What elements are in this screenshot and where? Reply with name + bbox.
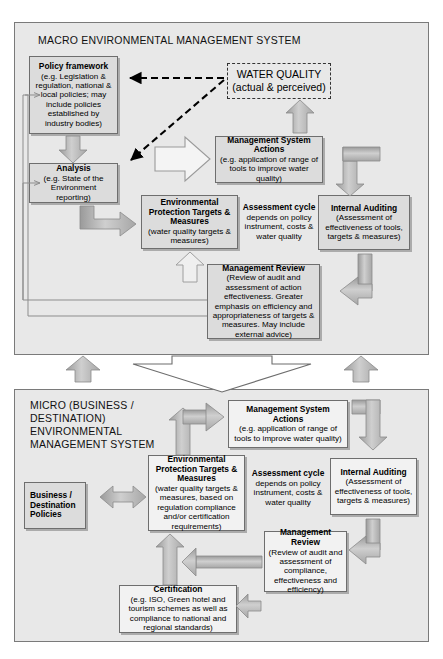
macro-management-review-body: (Review of audit and assessment of actio… <box>211 273 316 339</box>
micro-msa-body: (e.g. application of range of tools to i… <box>232 424 344 443</box>
micro-certification-heading: Certification <box>154 585 203 595</box>
arrow-macro-to-micro <box>133 356 311 392</box>
macro-policy-framework-box: Policy framework (e.g. Legislation & reg… <box>29 56 118 134</box>
micro-management-review-body: (Review of audit and assessment of compl… <box>268 548 343 595</box>
micro-internal-auditing-body: (Assessment of effectiveness of tools, t… <box>334 477 413 505</box>
micro-msa-heading: Management System Actions <box>232 405 344 424</box>
macro-msa-body: (e.g. application of range of tools to i… <box>219 155 319 183</box>
micro-certification-body: (e.g. ISO, Green hotel and tourism schem… <box>123 595 233 633</box>
arrow-micro-to-macro-left <box>66 356 100 382</box>
macro-internal-auditing-heading: Internal Auditing <box>331 204 397 214</box>
micro-assessment-cycle-heading: Assessment cycle <box>252 469 325 479</box>
macro-management-review-box: Management Review (Review of audit and a… <box>207 264 320 339</box>
micro-environmental-protection-targets-box: Environmental Protection Targets & Measu… <box>148 455 245 531</box>
macro-internal-auditing-box: Internal Auditing (Assessment of effecti… <box>318 195 410 250</box>
micro-ept-body: (water quality targets & measures, based… <box>152 484 241 531</box>
micro-internal-auditing-box: Internal Auditing (Assessment of effecti… <box>330 458 417 515</box>
micro-business-destination-policies-box: Business / Destination Policies <box>24 482 86 529</box>
micro-ept-heading: Environmental Protection Targets & Measu… <box>152 455 241 484</box>
macro-analysis-body: (e.g. State of the Environment reporting… <box>33 174 114 202</box>
macro-environmental-protection-targets-box: Environmental Protection Targets & Measu… <box>141 195 238 249</box>
macro-policy-framework-body: (e.g. Legislation & regulation, national… <box>33 72 114 128</box>
macro-policy-framework-heading: Policy framework <box>39 62 108 72</box>
macro-assessment-cycle-body: depends on policy instrument, costs & wa… <box>242 213 316 241</box>
micro-business-destination-policies-heading: Business / Destination Policies <box>30 491 80 520</box>
micro-assessment-cycle-body: depends on policy instrument, costs & wa… <box>251 479 325 507</box>
macro-assessment-cycle-heading: Assessment cycle <box>243 203 316 213</box>
macro-ept-body: (water quality targets & measures) <box>145 227 234 246</box>
micro-panel-title: MICRO (BUSINESS / DESTINATION) ENVIRONME… <box>30 399 200 451</box>
macro-internal-auditing-body: (Assessment of effectiveness of tools, t… <box>322 213 406 241</box>
micro-certification-box: Certification (e.g. ISO, Green hotel and… <box>119 585 237 633</box>
diagram-canvas: MACRO ENVIRONMENTAL MANAGEMENT SYSTEM Po… <box>0 0 443 659</box>
micro-management-review-box: Management Review (Review of audit and a… <box>264 531 347 592</box>
macro-msa-heading: Management System Actions <box>219 136 319 155</box>
water-quality-line1: WATER QUALITY <box>237 68 322 81</box>
macro-management-review-heading: Management Review <box>222 264 304 274</box>
macro-analysis-heading: Analysis <box>56 164 90 174</box>
macro-assessment-cycle-label: Assessment cycle depends on policy instr… <box>242 196 316 248</box>
macro-analysis-box: Analysis (e.g. State of the Environment … <box>29 163 118 203</box>
arrow-micro-to-macro-right <box>344 356 378 382</box>
water-quality-line2: (actual & perceived) <box>232 81 325 94</box>
micro-assessment-cycle-label: Assessment cycle depends on policy instr… <box>251 461 325 515</box>
micro-management-review-heading: Management Review <box>268 528 343 547</box>
macro-ept-heading: Environmental Protection Targets & Measu… <box>145 198 234 227</box>
macro-panel-title: MACRO ENVIRONMENTAL MANAGEMENT SYSTEM <box>38 34 368 47</box>
macro-management-system-actions-box: Management System Actions (e.g. applicat… <box>215 136 323 183</box>
micro-management-system-actions-box: Management System Actions (e.g. applicat… <box>228 400 348 448</box>
micro-internal-auditing-heading: Internal Auditing <box>340 468 406 478</box>
water-quality-box: WATER QUALITY (actual & perceived) <box>227 63 331 99</box>
